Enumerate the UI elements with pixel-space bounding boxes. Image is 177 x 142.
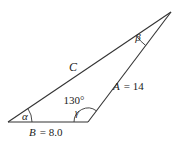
side-b-variable: B xyxy=(29,126,36,138)
side-a-label: A= 14 xyxy=(112,80,144,92)
beta-label: β xyxy=(134,31,141,43)
side-a-variable: A xyxy=(112,80,120,92)
gamma-label: γ xyxy=(75,107,80,118)
triangle-diagram: α β γ 130° C A= 14 B= 8.0 xyxy=(0,0,177,142)
gamma-value-label: 130° xyxy=(64,94,85,106)
triangle-figure-canvas: α β γ 130° C A= 14 B= 8.0 xyxy=(0,0,177,142)
side-b-label: B= 8.0 xyxy=(29,126,63,138)
alpha-angle-arc xyxy=(28,109,32,122)
side-a-value: = 14 xyxy=(124,80,144,92)
side-c-label: C xyxy=(69,60,78,74)
side-a-line xyxy=(88,12,171,122)
side-b-value: = 8.0 xyxy=(40,126,63,138)
side-c-line xyxy=(8,12,171,122)
alpha-label: α xyxy=(22,110,28,122)
